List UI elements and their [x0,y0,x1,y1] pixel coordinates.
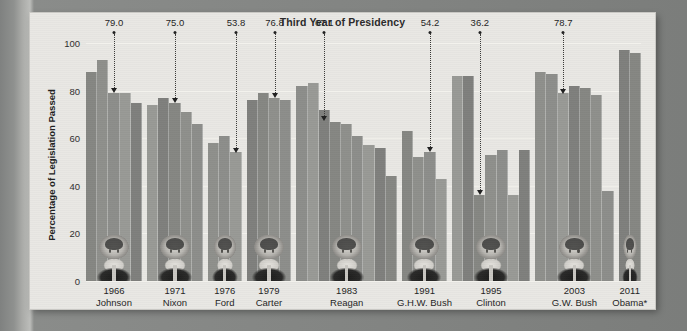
y-axis-tick-label: 20 [69,228,80,239]
y-axis-tick-label: 60 [69,133,80,144]
callout-arrow-icon [272,93,278,98]
x-tick-president: Clinton [476,297,506,309]
x-tick-president: Johnson [96,297,132,309]
x-axis-tick-label: 1995Clinton [476,285,506,308]
callout-value-label: 79.0 [105,17,124,28]
x-tick-year: 2011 [612,285,647,297]
bar [296,86,307,281]
x-tick-year: 1976 [214,285,235,297]
plot-area: 0204060801001966Johnson79.01971Nixon75.0… [86,43,641,281]
callout-stem [175,34,177,98]
callout-arrow-icon [560,89,566,94]
callout-arrow-icon [427,147,433,152]
president-group-reagan: 1983Reagan67.1 [296,43,397,281]
bar [375,148,386,281]
x-tick-president: Obama* [612,297,647,309]
bar [386,176,397,281]
bar [308,83,319,281]
president-group-g-h-w-bush: 1991G.H.W. Bush54.2 [402,43,447,281]
x-tick-president: Ford [214,297,235,309]
president-portrait [155,235,195,281]
president-group-ford: 1976Ford53.8 [208,43,242,281]
x-axis-tick-label: 1976Ford [214,285,235,308]
callout-arrow-icon [111,88,117,93]
callout-arrow-icon [172,98,178,103]
callout-stem [236,34,238,148]
president-group-johnson: 1966Johnson79.0 [86,43,142,281]
bar [519,150,530,281]
x-axis-tick-label: 2011Obama* [612,285,647,308]
president-portrait [210,235,240,281]
x-axis-tick-label: 2003G.W. Bush [552,285,597,308]
callout-stem [430,34,432,147]
president-portrait [94,235,134,281]
x-tick-year: 1991 [397,285,452,297]
president-portrait [471,235,511,281]
x-tick-president: G.H.W. Bush [397,297,452,309]
gridline [86,281,641,282]
y-axis-tick-label: 40 [69,180,80,191]
callout-stem [480,34,482,190]
president-portrait [621,235,639,281]
x-axis-tick-label: 1983Reagan [330,285,363,308]
bar [452,76,463,281]
bar [602,191,613,281]
x-tick-year: 1966 [96,285,132,297]
x-tick-year: 1979 [256,285,282,297]
x-axis-tick-label: 1991G.H.W. Bush [397,285,452,308]
y-axis-tick-label: 100 [64,38,80,49]
x-tick-president: Carter [256,297,282,309]
x-axis-tick-label: 1971Nixon [163,285,187,308]
president-group-obama: 2011Obama* [619,43,641,281]
president-portrait [554,235,594,281]
president-portrait [249,235,289,281]
callout-value-label: 75.0 [166,17,185,28]
callout-value-label: 67.1 [315,17,334,28]
callout-value-label: 54.2 [421,17,440,28]
callout-stem [324,34,326,116]
x-tick-year: 1971 [163,285,187,297]
callout-value-label: 53.8 [227,17,246,28]
callout-value-label: 78.7 [554,17,573,28]
y-axis-label: Percentage of Legislation Passed [46,89,57,241]
x-tick-president: G.W. Bush [552,297,597,309]
x-axis-tick-label: 1979Carter [256,285,282,308]
callout-arrow-icon [477,190,483,195]
bar [535,72,546,281]
x-tick-year: 1983 [330,285,363,297]
president-group-carter: 1979Carter76.8 [247,43,292,281]
chart-paper: Third Year of Presidency Percentage of L… [30,13,655,309]
callout-value-label: 76.8 [265,17,284,28]
callout-stem [563,34,565,89]
callout-stem [114,34,116,88]
x-tick-president: Reagan [330,297,363,309]
president-group-nixon: 1971Nixon75.0 [147,43,203,281]
callout-arrow-icon [321,116,327,121]
president-portrait [404,235,444,281]
y-axis-tick-label: 0 [75,276,80,287]
callout-arrow-icon [233,148,239,153]
x-tick-year: 2003 [552,285,597,297]
callout-stem [275,34,277,93]
x-tick-president: Nixon [163,297,187,309]
x-tick-year: 1995 [476,285,506,297]
president-group-g-w-bush: 2003G.W. Bush78.7 [535,43,613,281]
president-group-clinton: 1995Clinton36.2 [452,43,530,281]
y-axis-tick-label: 80 [69,85,80,96]
president-portrait [327,235,367,281]
callout-value-label: 36.2 [471,17,490,28]
page-background: Third Year of Presidency Percentage of L… [0,0,687,331]
x-axis-tick-label: 1966Johnson [96,285,132,308]
